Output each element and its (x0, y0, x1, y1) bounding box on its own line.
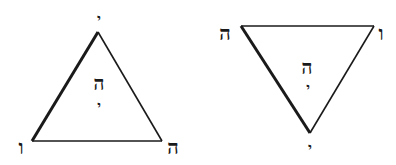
top-right-label-vav: ו (378, 21, 383, 45)
center-lower-yod: י (306, 80, 310, 96)
left-edge-thick (32, 32, 98, 141)
bottom-label-yod: י (308, 139, 312, 157)
upward-triangle: י ו ה ה י (18, 10, 178, 159)
center-upper-he: ה (302, 56, 313, 78)
apex-label-yod: י (97, 10, 101, 28)
top-left-label-he: ה (219, 21, 231, 45)
center-lower-yod: י (97, 98, 101, 114)
bottom-right-label-he: ה (167, 135, 179, 159)
bottom-left-label-vav: ו (18, 135, 23, 159)
right-edge (98, 32, 162, 141)
downward-triangle: ה ו י ה י (219, 21, 383, 157)
right-edge (310, 26, 374, 133)
left-edge-thick (241, 26, 310, 133)
triangle-diagram: י ו ה ה י ה ו י ה י (0, 0, 396, 165)
center-upper-he: ה (94, 72, 105, 94)
